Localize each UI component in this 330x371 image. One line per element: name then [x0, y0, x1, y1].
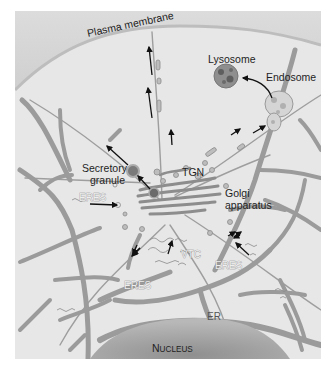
- secretory-granule-budding: [149, 188, 159, 198]
- label-eres-left: ERES: [79, 192, 107, 203]
- label-tgn: TGN: [182, 166, 204, 178]
- label-vtc: VTC: [181, 249, 201, 260]
- label-golgi-1: Golgi: [225, 187, 250, 199]
- label-lysosome: Lysosome: [208, 53, 256, 65]
- label-secretory-granule-1: Secretory: [82, 162, 128, 174]
- trafficking-diagram: Plasma membrane Lysosome Endosome Secret…: [0, 0, 330, 371]
- label-nucleus-rest: UCLEUS: [160, 345, 194, 354]
- lysosome: [214, 64, 238, 88]
- label-eres-right: ERES: [215, 260, 243, 271]
- label-eres-center: ERES: [124, 280, 152, 291]
- label-endosome: Endosome: [266, 71, 316, 83]
- label-nucleus-initial: N: [152, 342, 160, 354]
- label-secretory-granule-2: granule: [90, 174, 125, 186]
- secretory-granule: [127, 165, 139, 177]
- label-golgi-2: apparatus: [225, 199, 272, 211]
- label-er: ER: [207, 311, 221, 322]
